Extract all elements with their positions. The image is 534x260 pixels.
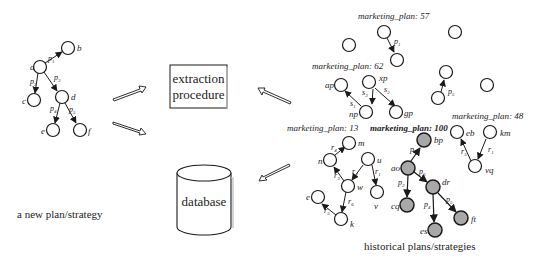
- plan-100-highlighted: marketing_plan: 100 bp ao cq dr es ft p1…: [370, 123, 477, 237]
- historical-caption: historical plans/strategies: [364, 240, 476, 252]
- arrow-new-to-database: [113, 122, 146, 135]
- isolated-node: [449, 26, 462, 39]
- svg-text:n: n: [318, 156, 323, 166]
- svg-text:p3: p3: [418, 167, 426, 177]
- svg-text:d: d: [71, 92, 76, 102]
- svg-text:eb: eb: [466, 128, 475, 138]
- svg-text:km: km: [500, 128, 511, 138]
- database-cylinder: database: [177, 165, 233, 235]
- svg-text:e: e: [41, 126, 45, 136]
- svg-text:r5: r5: [461, 147, 467, 157]
- node-f: [74, 124, 87, 137]
- svg-text:p4: p4: [49, 104, 57, 114]
- svg-text:p5: p5: [445, 195, 453, 205]
- svg-text:ap: ap: [325, 80, 335, 90]
- svg-text:marketing_plan: 48: marketing_plan: 48: [452, 111, 524, 121]
- isolated-node: [481, 79, 494, 92]
- svg-text:r2: r2: [352, 167, 358, 177]
- isolated-node: [343, 39, 356, 52]
- svg-text:p1: p1: [409, 145, 417, 155]
- svg-text:ft: ft: [471, 214, 477, 224]
- svg-text:u: u: [377, 155, 382, 165]
- svg-text:xp: xp: [378, 73, 388, 83]
- node-d: [56, 91, 69, 104]
- svg-text:f: f: [88, 126, 92, 136]
- svg-text:v: v: [374, 201, 378, 211]
- new-plan-tree: a b c d e f p1 p2 p3 p4 p5: [22, 42, 92, 137]
- plan-62: marketing_plan: 62 xp ap np gp s1 s3 s2: [312, 61, 414, 119]
- new-plan-caption: a new plan/strategy: [17, 208, 103, 220]
- arrow-historical-to-database: [259, 164, 290, 181]
- svg-text:r6: r6: [348, 197, 354, 207]
- svg-text:dr: dr: [442, 177, 451, 187]
- database-label: database: [182, 194, 227, 209]
- svg-text:bp: bp: [434, 135, 444, 145]
- node-b: [62, 42, 75, 55]
- svg-text:p2: p2: [397, 178, 405, 188]
- svg-text:marketing_plan: 13: marketing_plan: 13: [287, 123, 359, 133]
- plan-48: marketing_plan: 48 eb km vq r5 r1: [451, 111, 524, 175]
- svg-text:c: c: [22, 96, 26, 106]
- node-e: [47, 124, 60, 137]
- node-a: [34, 61, 47, 74]
- svg-text:marketing_plan: 57: marketing_plan: 57: [358, 11, 430, 21]
- svg-text:r1: r1: [488, 145, 494, 155]
- svg-text:gp: gp: [404, 108, 414, 118]
- svg-text:a: a: [30, 62, 35, 72]
- svg-text:p2: p2: [29, 77, 37, 87]
- svg-text:p4: p4: [423, 200, 431, 210]
- plan-fragment-p5: p5: [432, 66, 456, 105]
- svg-text:p1: p1: [47, 54, 55, 64]
- extraction-procedure-box: extraction procedure: [170, 65, 227, 108]
- svg-text:r5: r5: [324, 206, 330, 216]
- arrow-historical-to-extraction: [258, 88, 291, 104]
- svg-text:marketing_plan: 62: marketing_plan: 62: [312, 61, 384, 71]
- extraction-line2: procedure: [173, 87, 225, 102]
- extraction-line1: extraction: [173, 71, 225, 86]
- svg-text:r3: r3: [334, 171, 340, 181]
- svg-text:vq: vq: [485, 165, 494, 175]
- svg-text:marketing_plan: 100: marketing_plan: 100: [370, 123, 448, 133]
- plan-13: marketing_plan: 13 m n u w v e k r4 r3 r…: [287, 123, 384, 229]
- svg-text:cq: cq: [391, 201, 400, 211]
- plan-57: marketing_plan: 57 p1: [358, 11, 430, 67]
- svg-text:r1: r1: [375, 167, 381, 177]
- svg-text:p5: p5: [447, 87, 455, 97]
- node-c: [28, 94, 41, 107]
- arrow-new-to-extraction: [113, 86, 146, 101]
- svg-text:s2: s2: [384, 85, 390, 95]
- svg-text:p5: p5: [68, 105, 76, 115]
- svg-text:b: b: [77, 43, 82, 53]
- plan-retrieval-diagram: a b c d e f p1 p2 p3 p4 p5 a new plan/st…: [0, 0, 534, 260]
- svg-text:es: es: [420, 226, 428, 236]
- svg-text:np: np: [349, 109, 359, 119]
- svg-text:e: e: [306, 192, 310, 202]
- svg-text:ao: ao: [391, 163, 401, 173]
- svg-text:m: m: [358, 138, 365, 148]
- svg-text:p3: p3: [53, 73, 61, 83]
- svg-text:s3: s3: [362, 88, 368, 98]
- svg-text:p1: p1: [393, 37, 401, 47]
- svg-text:k: k: [350, 219, 355, 229]
- svg-text:w: w: [357, 182, 363, 192]
- svg-text:r4: r4: [331, 143, 337, 153]
